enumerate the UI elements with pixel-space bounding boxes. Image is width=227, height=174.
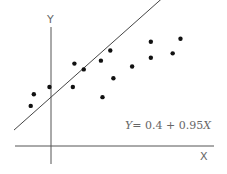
data-point xyxy=(149,39,153,43)
equation-part: = 0.4 + 0.95 xyxy=(132,119,203,132)
equation-part: X xyxy=(202,119,212,132)
data-point xyxy=(108,48,112,52)
regression-equation: Y= 0.4 + 0.95X xyxy=(125,119,212,132)
x-axis-label: X xyxy=(200,150,208,163)
data-point xyxy=(178,37,182,41)
data-point xyxy=(82,67,86,71)
data-point xyxy=(32,92,36,96)
data-point xyxy=(99,58,103,62)
data-point xyxy=(47,85,51,89)
data-point xyxy=(71,85,75,89)
data-point xyxy=(170,51,174,55)
y-axis-label: Y xyxy=(46,13,54,26)
regression-line xyxy=(14,0,193,130)
scatter-chart: X Y Y= 0.4 + 0.95X xyxy=(0,0,227,174)
data-point xyxy=(111,76,115,80)
data-point xyxy=(149,56,153,60)
data-point xyxy=(72,61,76,65)
data-points xyxy=(29,37,183,109)
data-point xyxy=(100,95,104,99)
data-point xyxy=(29,104,33,108)
data-point xyxy=(130,64,134,68)
